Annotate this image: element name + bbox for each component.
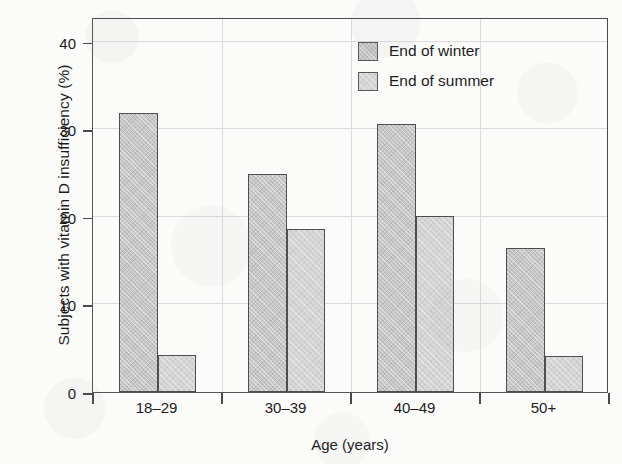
legend-label-winter: End of winter [389,42,479,60]
x-tick-label: 18–29 [136,399,178,416]
y-tick-label: 0 [0,385,76,402]
group-separator [351,19,352,392]
chart-legend: End of winter End of summer [358,36,494,96]
x-tick-mark [350,393,352,404]
bar-chart-figure: Subjects with vitamin D insufficiency (%… [0,0,622,464]
gridline [93,128,607,129]
y-tick-mark [83,305,92,307]
bar [506,248,545,392]
x-tick-mark [479,393,481,404]
plot-area [92,18,608,393]
y-tick-label: 20 [0,209,76,226]
y-tick-mark [83,130,92,132]
x-tick-mark [221,393,223,404]
bar [377,124,416,392]
y-tick-mark [83,218,92,220]
gridline [93,41,607,42]
x-axis-title: Age (years) [92,436,608,453]
y-axis-title: Subjects with vitamin D insufficiency (%… [55,15,73,395]
y-tick-mark [83,43,92,45]
y-tick-label: 30 [0,122,76,139]
legend-swatch-winter [358,42,378,61]
y-tick-label: 40 [0,34,76,51]
legend-swatch-summer [358,72,378,91]
x-tick-mark [608,393,610,404]
legend-label-summer: End of summer [389,72,494,90]
legend-item-summer: End of summer [358,66,494,96]
x-tick-mark [92,393,94,404]
gridline [93,216,607,217]
bar [158,355,197,392]
bar [119,113,158,392]
group-separator [222,19,223,392]
bar [416,216,455,392]
x-tick-label: 50+ [531,399,556,416]
bar [248,174,287,392]
x-tick-label: 30–39 [265,399,307,416]
y-tick-mark [83,393,92,395]
bar [545,356,584,392]
x-tick-label: 40–49 [394,399,436,416]
legend-item-winter: End of winter [358,36,494,66]
y-tick-label: 10 [0,297,76,314]
bar [287,229,326,392]
